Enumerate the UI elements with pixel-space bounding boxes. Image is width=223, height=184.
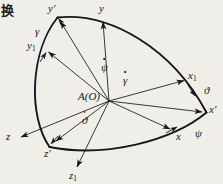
label-y1: y1 [27, 40, 36, 53]
label-theta-dot: ϑ [82, 115, 87, 126]
overdot-gamma [124, 71, 126, 73]
label-psi-dot: ψ [101, 62, 108, 73]
overdot-theta [84, 111, 86, 113]
paper-background [0, 0, 223, 184]
label-z: z [6, 131, 10, 142]
label-psi-angle: ψ [195, 128, 202, 139]
page-margin-character: 换 [1, 0, 14, 19]
label-x: x [176, 131, 181, 142]
euler-angle-diagram [0, 0, 223, 184]
label-theta-angle: ϑ [204, 85, 209, 96]
label-z-prime: z′ [44, 148, 51, 159]
label-gamma-angle: γ [35, 26, 39, 37]
label-gamma-dot: γ [123, 75, 127, 86]
label-x1: x1 [188, 70, 197, 83]
label-y: y [99, 3, 104, 14]
label-z1-subscript: 1 [73, 174, 77, 183]
label-x-prime: x′ [209, 104, 216, 115]
label-y-prime: y′ [48, 3, 55, 14]
label-gamma-dot-base: γ [123, 74, 127, 86]
label-psi-dot-base: ψ [101, 61, 108, 73]
label-theta-dot-base: ϑ [82, 114, 87, 126]
label-x1-subscript: 1 [193, 74, 197, 83]
label-origin: A(O) [78, 91, 100, 102]
label-y1-subscript: 1 [32, 44, 36, 53]
overdot-psi [104, 58, 106, 60]
label-z1: z1 [69, 170, 77, 183]
